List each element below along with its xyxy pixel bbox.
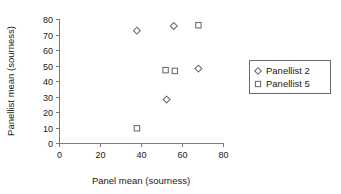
y-axis-title: Panellist mean (sourness) [5,26,16,136]
y-axis-ticks [56,20,59,144]
y-tick-label: 50 [43,62,53,72]
series-2-markers [134,23,201,131]
x-tick-label: 60 [177,150,187,160]
x-tick-label: 0 [57,150,62,160]
y-axis: 01020304050607080 [43,15,60,149]
square-marker-icon [196,23,201,28]
y-axis-tick-labels: 01020304050607080 [43,15,53,149]
square-marker-icon [163,67,168,72]
x-axis-title: Panel mean (sourness) [92,175,190,186]
y-tick-label: 20 [43,108,53,118]
diamond-marker-icon [195,65,202,72]
y-tick-label: 80 [43,15,53,25]
y-tick-label: 70 [43,31,53,41]
x-axis: 020406080 [57,143,229,160]
diamond-marker-icon [170,23,177,30]
y-tick-label: 30 [43,93,53,103]
square-marker-icon [134,126,139,131]
y-tick-label: 60 [43,46,53,56]
legend-label: Panellist 2 [266,65,310,76]
data-point-group [134,23,202,131]
scatter-chart: 01020304050607080 020406080 Panel mean (… [0,0,341,194]
x-tick-label: 40 [136,150,146,160]
chart-canvas: 01020304050607080 020406080 Panel mean (… [0,0,341,194]
square-marker-icon [172,68,177,73]
y-tick-label: 0 [48,139,53,149]
legend: Panellist 2Panellist 5 [250,61,331,94]
diamond-marker-icon [163,96,170,103]
series-1-markers [134,23,202,103]
x-tick-label: 20 [95,150,105,160]
diamond-marker-icon [134,27,141,34]
x-tick-label: 80 [218,150,228,160]
legend-label: Panellist 5 [266,78,310,89]
y-tick-label: 10 [43,124,53,134]
x-axis-tick-labels: 020406080 [57,150,229,160]
y-tick-label: 40 [43,77,53,87]
